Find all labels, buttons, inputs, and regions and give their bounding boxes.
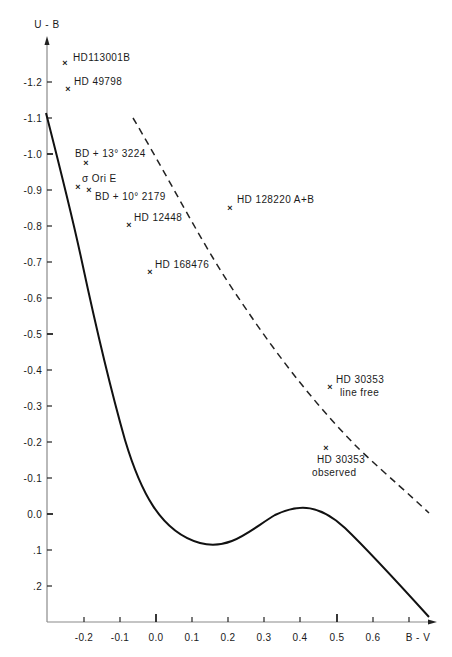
x-axis-title: B - V (406, 632, 431, 643)
x-tick-label: 0.4 (293, 632, 308, 643)
y-tick-label: -0.1 (24, 473, 43, 484)
y-ticks: -1.2-1.1-1.0-0.9-0.8-0.7-0.6-0.5-0.4-0.3… (24, 77, 53, 592)
y-tick-label: .2 (33, 581, 42, 592)
star-hd49798: × HD 49798 (65, 76, 122, 94)
y-tick-label: -0.2 (24, 437, 43, 448)
star-label: HD 30353 (317, 454, 365, 465)
y-axis: U - B -1.2-1.1-1.0-0.9-0.8-0.7-0.6-0.5-0… (24, 19, 60, 622)
star-points: × HD113001B × HD 49798 × BD + 13° 3224 ×… (62, 52, 384, 478)
blackbody-dashed-line (133, 118, 429, 513)
x-axis: B - V -0.2-0.10.00.10.20.30.40.50.6 (47, 614, 437, 643)
y-tick-label: 0.0 (27, 509, 42, 520)
star-label: HD 128220 A+B (237, 194, 314, 205)
y-tick-label: -0.4 (24, 365, 43, 376)
star-label: σ Ori E (82, 173, 117, 184)
x-ticks: -0.2-0.10.00.10.20.30.40.50.6 (75, 614, 409, 643)
star-label-sub: observed (312, 467, 356, 478)
cross-marker-icon: × (323, 443, 328, 453)
main-sequence-curve (46, 113, 429, 617)
cross-marker-icon: × (147, 267, 152, 277)
star-label: BD + 13° 3224 (75, 148, 146, 159)
cross-marker-icon: × (126, 220, 131, 230)
star-label: HD 30353 (336, 374, 384, 385)
cross-marker-icon: × (83, 158, 88, 168)
x-tick-label: 0.0 (149, 632, 164, 643)
y-tick-label: -0.8 (24, 221, 43, 232)
y-tick-label: -0.7 (24, 257, 43, 268)
cross-marker-icon: × (65, 84, 70, 94)
star-hd113001b: × HD113001B (62, 52, 130, 68)
x-tick-label: 0.2 (221, 632, 236, 643)
star-label: HD 168476 (155, 259, 209, 270)
y-tick-label: .1 (33, 545, 42, 556)
y-tick-label: -0.3 (24, 401, 43, 412)
star-bd13-3224: × BD + 13° 3224 (75, 148, 146, 168)
star-label-sub: line free (340, 387, 379, 398)
x-tick-label: 0.1 (185, 632, 200, 643)
x-tick-label: 0.5 (330, 632, 345, 643)
x-tick-label: -0.2 (75, 632, 94, 643)
star-hd30353-line-free: × HD 30353 line free (327, 374, 384, 398)
x-tick-label: -0.1 (111, 632, 130, 643)
star-label: HD 49798 (74, 76, 122, 87)
cross-marker-icon: × (86, 185, 91, 195)
y-tick-label: -1.1 (24, 113, 43, 124)
cross-marker-icon: × (62, 58, 67, 68)
star-label: HD113001B (73, 52, 130, 63)
x-tick-label: 0.3 (257, 632, 272, 643)
y-tick-label: -0.9 (24, 185, 43, 196)
star-label: HD 12448 (134, 212, 182, 223)
y-tick-label: -1.2 (24, 77, 43, 88)
star-hd168476: × HD 168476 (147, 259, 209, 277)
x-tick-label: 0.6 (366, 632, 381, 643)
cross-marker-icon: × (227, 203, 232, 213)
y-axis-arrow-icon (45, 36, 50, 45)
y-tick-label: -0.5 (24, 329, 43, 340)
y-tick-label: -0.6 (24, 293, 43, 304)
y-axis-title: U - B (34, 19, 59, 30)
star-hd12448: × HD 12448 (126, 212, 182, 230)
color-color-diagram: U - B -1.2-1.1-1.0-0.9-0.8-0.7-0.6-0.5-0… (0, 0, 452, 657)
star-label: BD + 10° 2179 (95, 191, 166, 202)
cross-marker-icon: × (327, 382, 332, 392)
cross-marker-icon: × (75, 182, 80, 192)
star-hd128220: × HD 128220 A+B (227, 194, 314, 213)
star-bd10-2179: × BD + 10° 2179 (86, 185, 165, 202)
y-tick-label: -1.0 (24, 149, 43, 160)
star-sigma-ori-e: × σ Ori E (75, 173, 116, 192)
x-axis-arrow-icon (428, 620, 437, 625)
